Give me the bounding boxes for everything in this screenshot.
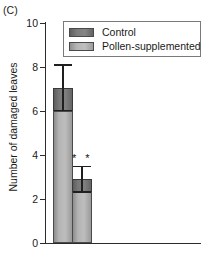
error-bar-stem-group1 — [62, 64, 63, 111]
error-bar-cap-upper-group1 — [54, 64, 73, 65]
bar-pollen-group2 — [72, 192, 92, 243]
y-axis-line — [45, 22, 46, 244]
y-tick-label-6: 6 — [16, 106, 38, 117]
significance-marker-group2: * * — [72, 153, 93, 164]
legend-swatch-control-icon — [69, 28, 94, 37]
y-tick-label-4: 4 — [16, 150, 38, 161]
error-bar-cap-upper-group2 — [73, 166, 92, 167]
y-tick-label-10: 10 — [16, 18, 38, 29]
y-axis-title: Number of damaged leaves — [7, 42, 19, 212]
legend: Control Pollen-supplemented — [63, 21, 201, 57]
error-bar-cap-lower-group2 — [73, 191, 92, 192]
legend-item-control: Control — [69, 25, 196, 39]
y-tick-label-0: 0 — [16, 238, 38, 249]
y-tick-label-8: 8 — [16, 62, 38, 73]
legend-label-pollen-supplemented: Pollen-supplemented — [102, 41, 201, 52]
figure-panel-c: (C) 0 2 4 6 8 10 Number of damaged leave… — [0, 0, 204, 254]
panel-label: (C) — [3, 4, 18, 16]
legend-label-control: Control — [102, 27, 136, 38]
bar-pollen-group1 — [53, 111, 73, 243]
error-bar-cap-lower-group1 — [54, 110, 73, 111]
error-bar-stem-group2 — [81, 166, 82, 193]
legend-swatch-pollen-icon — [69, 42, 94, 51]
legend-item-pollen-supplemented: Pollen-supplemented — [69, 39, 196, 53]
y-tick-label-2: 2 — [16, 194, 38, 205]
